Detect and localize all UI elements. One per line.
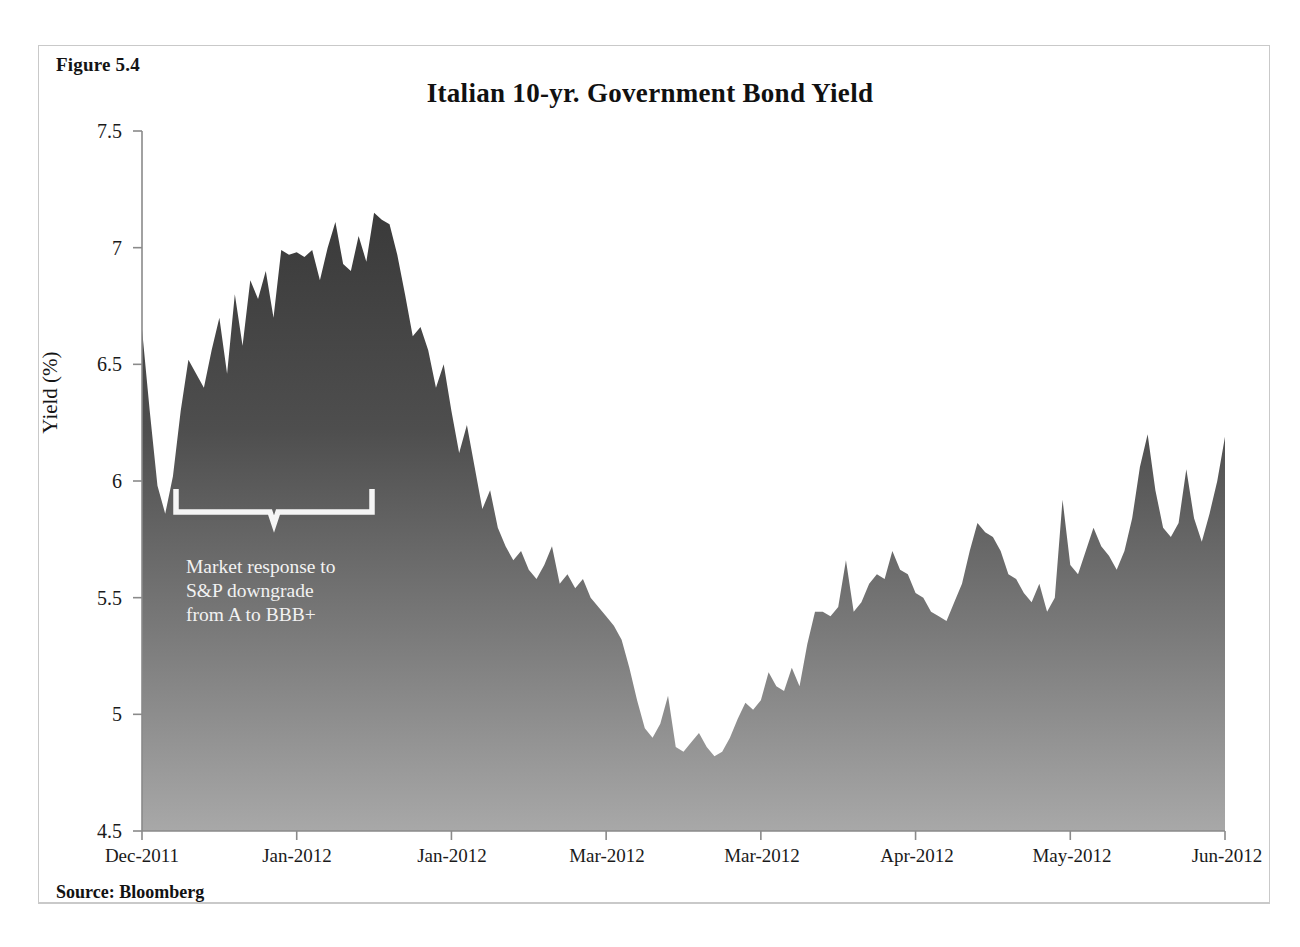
xtick-label: Jun-2012	[1147, 845, 1300, 867]
annotation-text: Market response to S&P downgrade from A …	[186, 555, 416, 627]
annotation-line-2: S&P downgrade	[186, 579, 416, 603]
ytick-label: 6.5	[58, 353, 122, 376]
source-divider	[38, 903, 1270, 904]
xtick-label: Mar-2012	[527, 845, 687, 867]
ytick-label: 6	[58, 470, 122, 493]
chart-plot	[0, 0, 1300, 947]
ytick-label: 7.5	[58, 120, 122, 143]
area-series	[142, 213, 1225, 831]
y-tick-marks	[133, 131, 142, 831]
xtick-label: May-2012	[992, 845, 1152, 867]
xtick-label: Mar-2012	[682, 845, 842, 867]
ytick-label: 5.5	[58, 587, 122, 610]
annotation-line-3: from A to BBB+	[186, 603, 416, 627]
xtick-label: Jan-2012	[217, 845, 377, 867]
source-note: Source: Bloomberg	[56, 882, 204, 903]
ytick-label: 4.5	[58, 820, 122, 843]
xtick-label: Dec-2011	[62, 845, 222, 867]
ytick-label: 5	[58, 703, 122, 726]
annotation-line-1: Market response to	[186, 555, 416, 579]
ytick-label: 7	[58, 237, 122, 260]
xtick-label: Jan-2012	[372, 845, 532, 867]
xtick-label: Apr-2012	[837, 845, 997, 867]
x-tick-marks	[142, 831, 1225, 840]
